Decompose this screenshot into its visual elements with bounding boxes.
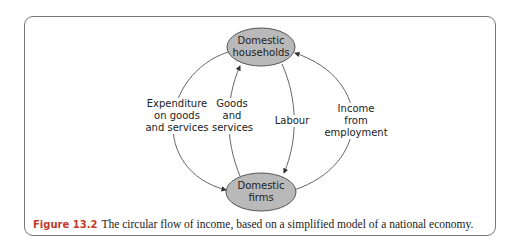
firms-label: Domestic firms xyxy=(227,180,295,204)
label-line: services xyxy=(212,122,252,134)
flow-income-label: Income from employment xyxy=(323,103,389,139)
firms-label-line1: Domestic xyxy=(227,180,295,192)
label-line: Income xyxy=(323,103,389,115)
label-line: on goods xyxy=(142,110,212,122)
flow-labour-label: Labour xyxy=(272,115,312,127)
households-label-line1: Domestic xyxy=(227,35,295,47)
flow-expenditure-label: Expenditure on goods and services xyxy=(142,98,212,134)
figure-caption-text: The circular flow of income, based on a … xyxy=(101,218,473,230)
households-label-line2: households xyxy=(227,47,295,59)
label-line: employment xyxy=(323,127,389,139)
households-label: Domestic households xyxy=(227,35,295,59)
figure-caption: Figure 13.2The circular flow of income, … xyxy=(33,218,473,230)
label-line: Goods xyxy=(212,98,252,110)
figure-number: Figure 13.2 xyxy=(33,219,97,230)
flow-goods-label: Goods and services xyxy=(212,98,252,134)
label-line: and services xyxy=(142,122,212,134)
firms-label-line2: firms xyxy=(227,192,295,204)
label-line: Labour xyxy=(272,115,312,127)
label-line: Expenditure xyxy=(142,98,212,110)
label-line: from xyxy=(323,115,389,127)
label-line: and xyxy=(212,110,252,122)
